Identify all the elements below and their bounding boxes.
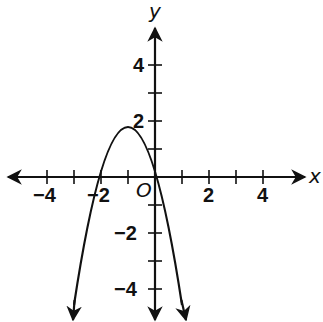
parabola-right-arrow bbox=[181, 300, 186, 320]
coordinate-plane: x y O −4 −2 2 4 4 2 −2 −4 bbox=[0, 0, 323, 322]
x-tick-label: −2 bbox=[87, 184, 110, 206]
y-tick-label: −4 bbox=[114, 278, 138, 300]
x-tick-label: 4 bbox=[257, 184, 269, 206]
x-tick-label: 2 bbox=[203, 184, 214, 206]
x-tick-label: −4 bbox=[33, 184, 57, 206]
y-tick-label: −2 bbox=[114, 222, 137, 244]
y-axis-label: y bbox=[148, 0, 162, 23]
y-tick-label: 2 bbox=[133, 110, 144, 132]
y-tick-label: 4 bbox=[133, 54, 145, 76]
x-axis-label: x bbox=[308, 164, 321, 188]
origin-label: O bbox=[136, 178, 152, 202]
